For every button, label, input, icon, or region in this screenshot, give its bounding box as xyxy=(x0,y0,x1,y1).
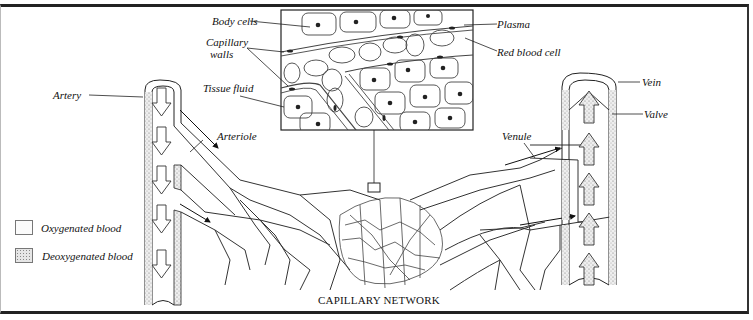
label-tissue-fluid: Tissue fluid xyxy=(203,82,253,94)
capillary-mesh xyxy=(339,130,442,288)
label-capillary-walls-line1: Capillary xyxy=(206,36,248,48)
label-artery: Artery xyxy=(53,89,81,101)
label-red-blood-cell: Red blood cell xyxy=(497,46,561,58)
label-plasma: Plasma xyxy=(497,18,530,30)
circulation-diagram xyxy=(0,0,753,320)
artery xyxy=(145,80,181,305)
legend-swatch-deoxygenated xyxy=(15,248,33,263)
arterioles xyxy=(174,110,380,290)
legend-label-deoxygenated: Deoxygenated blood xyxy=(42,250,133,262)
venules xyxy=(410,145,610,290)
label-capillary-walls-line2: walls xyxy=(210,48,233,60)
magnified-inset xyxy=(281,10,473,135)
label-venule: Venule xyxy=(502,130,531,142)
legend-swatch-oxygenated xyxy=(15,220,33,235)
up-arrows xyxy=(579,91,599,285)
label-vein: Vein xyxy=(642,76,661,88)
label-valve: Valve xyxy=(644,108,668,120)
magnified-region-box xyxy=(368,183,380,192)
legend-label-oxygenated: Oxygenated blood xyxy=(41,222,121,234)
vein xyxy=(562,73,616,285)
down-arrows xyxy=(152,88,171,278)
label-body-cells: Body cells xyxy=(212,15,258,27)
diagram-title: CAPILLARY NETWORK xyxy=(318,294,440,306)
label-arteriole: Arteriole xyxy=(217,130,257,142)
